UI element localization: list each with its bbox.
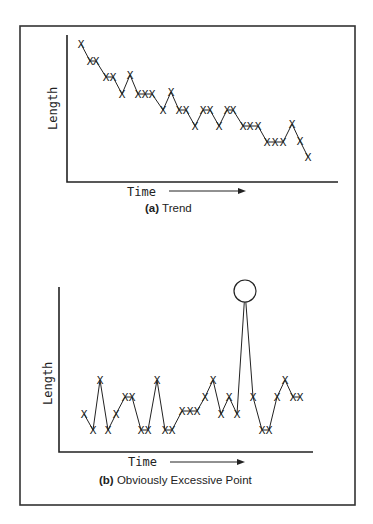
data-point-marker: X	[135, 88, 142, 101]
data-point-marker: X	[113, 408, 120, 421]
chart-b-markers: XXXXXXXXXXXXXXXXXXXXXXXXXXXX	[81, 285, 304, 437]
chart-a-caption: (a) Trend	[145, 202, 192, 214]
data-point-marker: X	[179, 405, 186, 418]
data-point-marker: X	[297, 391, 304, 404]
chart-a-markers: XXXXXXXXXXXXXXXXXXXXXXXXXXXXX	[78, 38, 312, 164]
chart-b-caption: (b) Obviously Excessive Point	[99, 474, 253, 486]
data-point-marker: X	[145, 424, 152, 437]
data-point-marker: X	[122, 391, 129, 404]
data-point-marker: X	[81, 408, 88, 421]
data-point-marker: X	[247, 120, 254, 133]
data-point-marker: X	[202, 391, 209, 404]
data-point-marker: X	[169, 424, 176, 437]
data-point-marker: X	[142, 88, 149, 101]
data-point-marker: X	[255, 120, 262, 133]
chart-a-ylabel: Length	[46, 87, 60, 130]
data-point-marker: X	[207, 104, 214, 117]
chart-b-xlabel: Time	[128, 455, 157, 469]
data-point-marker: X	[176, 104, 183, 117]
data-point-marker: X	[127, 69, 134, 82]
data-point-marker: X	[110, 71, 117, 84]
data-point-marker: X	[90, 424, 97, 437]
data-point-marker: X	[183, 104, 190, 117]
data-point-marker: X	[297, 135, 304, 148]
data-point-marker: X	[154, 374, 161, 387]
data-point-marker: X	[200, 104, 207, 117]
data-point-marker: X	[289, 118, 296, 131]
chart-a: XXXXXXXXXXXXXXXXXXXXXXXXXXXXX Length Tim…	[46, 35, 338, 214]
data-point-marker: X	[97, 374, 104, 387]
data-point-marker: X	[138, 424, 145, 437]
data-point-marker: X	[103, 71, 110, 84]
data-point-marker: X	[305, 151, 312, 164]
chart-a-arrowhead-icon	[238, 188, 246, 194]
data-point-marker: X	[216, 120, 223, 133]
data-point-marker: X	[290, 391, 297, 404]
chart-a-xlabel: Time	[127, 185, 156, 199]
data-point-marker: X	[129, 391, 136, 404]
data-point-marker: X	[280, 136, 287, 149]
figure-frame	[20, 26, 355, 505]
data-point-marker: X	[210, 374, 217, 387]
data-point-marker: X	[240, 120, 247, 133]
data-point-marker: X	[162, 424, 169, 437]
chart-b: XXXXXXXXXXXXXXXXXXXXXXXXXXXX Length Time…	[41, 280, 313, 486]
data-point-marker: X	[160, 104, 167, 117]
data-point-marker: X	[119, 88, 126, 101]
data-point-marker: X	[274, 391, 281, 404]
data-point-marker: X	[282, 374, 289, 387]
chart-b-axes	[59, 287, 313, 452]
outlier-circle	[234, 280, 256, 302]
data-point-marker: X	[187, 405, 194, 418]
data-point-marker: X	[149, 88, 156, 101]
data-point-marker: X	[250, 391, 257, 404]
data-point-marker: X	[259, 424, 266, 437]
data-point-marker: X	[168, 86, 175, 99]
data-point-marker: X	[192, 120, 199, 133]
data-point-marker: X	[93, 55, 100, 68]
data-point-marker: X	[194, 405, 201, 418]
chart-b-arrowhead-icon	[237, 459, 245, 465]
data-point-marker: X	[234, 408, 241, 421]
data-point-marker: X	[266, 424, 273, 437]
data-point-marker: X	[226, 391, 233, 404]
data-point-marker: X	[105, 424, 112, 437]
data-point-marker: X	[230, 104, 237, 117]
chart-b-ylabel: Length	[41, 362, 55, 405]
figure: XXXXXXXXXXXXXXXXXXXXXXXXXXXXX Length Tim…	[0, 0, 373, 524]
data-point-marker: X	[78, 38, 85, 51]
data-point-marker: X	[272, 136, 279, 149]
data-point-marker: X	[218, 408, 225, 421]
data-point-marker: X	[264, 136, 271, 149]
